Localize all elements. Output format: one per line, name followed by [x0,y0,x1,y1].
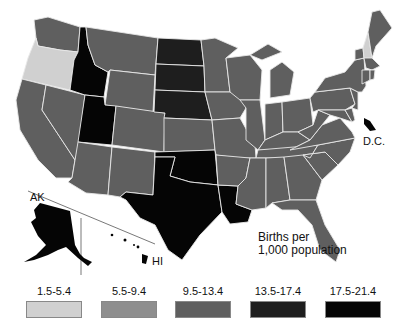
label-ak: AK [30,191,45,203]
state-ct [362,70,370,84]
legend-item-4: 17.5-21.4 [324,285,382,318]
legend-item-2: 9.5-13.4 [174,285,232,318]
caption-line-2: 1,000 population [258,244,347,257]
us-choropleth-map [0,0,409,332]
legend-item-1: 5.5-9.4 [100,285,158,318]
legend-swatch [250,301,306,318]
label-dc: D.C. [363,135,385,147]
legend-label: 1.5-5.4 [25,285,83,299]
legend-item-0: 1.5-5.4 [25,285,83,318]
state-dc [364,118,376,131]
legend-label: 5.5-9.4 [100,285,158,299]
map-caption: Births per 1,000 population [258,231,347,257]
state-me [368,10,392,58]
state-ny [315,58,366,92]
state-hi [111,234,148,264]
state-wi [226,55,262,100]
legend-swatch [175,301,231,318]
state-nd [156,38,204,66]
state-ak [24,203,92,266]
state-sd [155,64,205,92]
legend-label: 13.5-17.4 [249,285,307,299]
state-vt [355,48,364,60]
legend-swatch [101,301,157,318]
label-hi: HI [152,255,163,267]
state-ri [370,70,375,80]
state-ks [164,118,215,152]
legend-label: 17.5-21.4 [324,285,382,299]
legend-swatch [26,301,82,318]
legend-swatch [325,301,381,318]
state-nm [108,147,155,197]
state-ma [364,58,380,70]
legend-item-3: 13.5-17.4 [249,285,307,318]
legend-label: 9.5-13.4 [174,285,232,299]
state-co [112,106,165,152]
